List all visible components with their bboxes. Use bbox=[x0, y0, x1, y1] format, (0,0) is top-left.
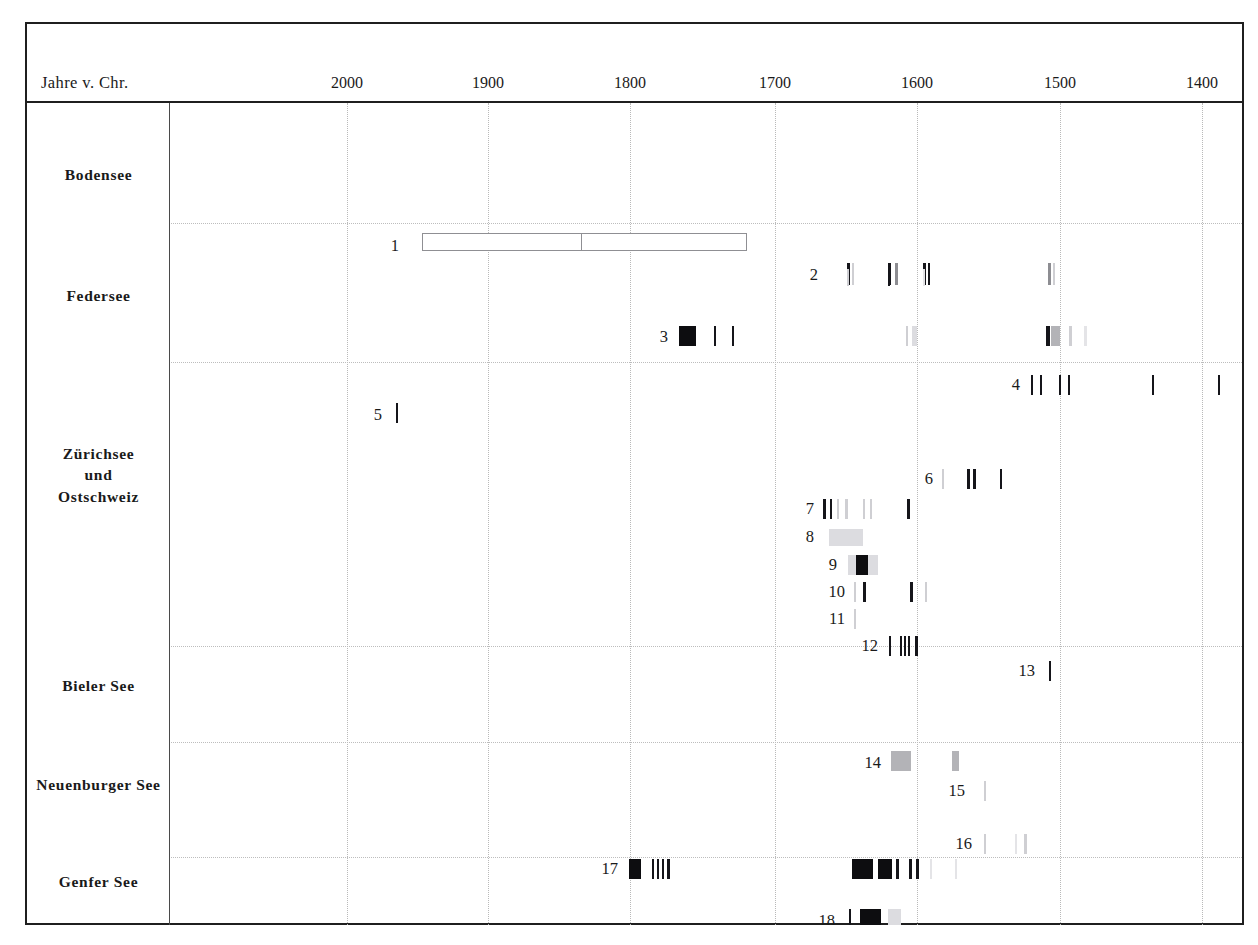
gridline-1900 bbox=[488, 103, 489, 925]
series-10-bar bbox=[910, 582, 913, 602]
series-2-bar bbox=[923, 269, 925, 286]
axis-tick-1500: 1500 bbox=[1044, 74, 1076, 92]
chart-header: Jahre v. Chr. 20001900180017001600150014… bbox=[27, 24, 1242, 103]
series-4-bar bbox=[1152, 375, 1154, 395]
series-number-5: 5 bbox=[374, 405, 382, 425]
series-7-bar bbox=[870, 499, 872, 519]
series-11-bar bbox=[854, 609, 856, 629]
series-14-bar bbox=[952, 751, 959, 771]
series-16-bar bbox=[984, 834, 986, 854]
series-16-bar bbox=[1015, 834, 1017, 854]
lake-label-zuerichsee-line1: Zürichsee bbox=[63, 445, 135, 462]
series-12-bar bbox=[900, 636, 902, 656]
series-4-bar bbox=[1068, 375, 1070, 395]
series-7-bar bbox=[863, 499, 865, 519]
series-7-bar bbox=[837, 499, 839, 519]
series-number-12: 12 bbox=[862, 636, 879, 656]
series-number-3: 3 bbox=[660, 327, 668, 347]
series-10-bar bbox=[925, 582, 927, 602]
series-3-bar bbox=[714, 326, 716, 346]
series-4-bar bbox=[1040, 375, 1042, 395]
series-4-bar bbox=[1059, 375, 1061, 395]
series-3-bar bbox=[732, 326, 734, 346]
series-2-bar bbox=[852, 263, 854, 285]
series-12-bar bbox=[889, 636, 891, 656]
gridline-1400 bbox=[1202, 103, 1203, 925]
series-2-bar bbox=[847, 269, 849, 286]
series-17-bar bbox=[909, 859, 912, 879]
axis-tick-1600: 1600 bbox=[901, 74, 933, 92]
series-10-bar bbox=[863, 582, 866, 602]
series-number-8: 8 bbox=[806, 527, 814, 547]
series-13-bar bbox=[1049, 661, 1051, 681]
series-number-4: 4 bbox=[1012, 375, 1020, 395]
series-2-bar bbox=[1053, 263, 1055, 285]
series-3-bar bbox=[1046, 326, 1050, 346]
lake-label-zuerichsee-line3: Ostschweiz bbox=[58, 488, 139, 505]
series-number-10: 10 bbox=[829, 582, 846, 602]
series-3-bar bbox=[912, 326, 917, 346]
series-3-bar bbox=[679, 326, 696, 346]
lake-label-bieler: Bieler See bbox=[27, 675, 170, 696]
series-12-bar bbox=[908, 636, 910, 656]
series-number-6: 6 bbox=[925, 469, 933, 489]
series-3-bar bbox=[1069, 326, 1072, 346]
series-10-bar bbox=[854, 582, 856, 602]
series-number-11: 11 bbox=[829, 609, 845, 629]
series-3-bar bbox=[1051, 326, 1060, 346]
series-17-bar bbox=[657, 859, 659, 879]
series-18-bar bbox=[849, 909, 851, 925]
series-number-9: 9 bbox=[829, 555, 837, 575]
gridline-1600 bbox=[917, 103, 918, 925]
series-17-bar bbox=[629, 859, 641, 879]
series-6-bar bbox=[973, 469, 976, 489]
series-17-bar bbox=[930, 859, 932, 879]
lake-label-bodensee: Bodensee bbox=[27, 164, 170, 185]
series-7-bar bbox=[830, 499, 832, 519]
series-17-bar bbox=[652, 859, 654, 879]
series-1-bar bbox=[581, 233, 583, 251]
series-17-bar bbox=[662, 859, 664, 879]
series-18-bar bbox=[888, 909, 901, 925]
group-separator-2 bbox=[170, 646, 1242, 647]
series-number-1: 1 bbox=[391, 236, 399, 256]
series-number-15: 15 bbox=[949, 781, 966, 801]
series-2-bar bbox=[928, 263, 930, 285]
series-12-bar bbox=[915, 636, 918, 656]
series-number-18: 18 bbox=[819, 911, 836, 925]
lake-label-federsee: Federsee bbox=[27, 285, 170, 306]
group-separator-3 bbox=[170, 742, 1242, 743]
series-1-bar bbox=[422, 233, 747, 251]
series-number-17: 17 bbox=[602, 859, 619, 879]
group-separator-4 bbox=[170, 857, 1242, 858]
series-3-bar bbox=[1084, 326, 1087, 346]
series-6-bar bbox=[967, 469, 970, 489]
series-2-bar bbox=[895, 263, 898, 285]
series-17-bar bbox=[955, 859, 957, 879]
series-17-bar bbox=[916, 859, 919, 879]
series-17-bar bbox=[878, 859, 892, 879]
series-4-bar bbox=[1218, 375, 1220, 395]
axis-title: Jahre v. Chr. bbox=[41, 73, 129, 93]
gridline-2000 bbox=[347, 103, 348, 925]
axis-tick-1400: 1400 bbox=[1186, 74, 1218, 92]
series-18-bar bbox=[860, 909, 881, 925]
series-14-bar bbox=[891, 751, 911, 771]
series-8-bar bbox=[829, 529, 863, 546]
chart-plot-area: 123456789101112131415161718192021 bbox=[170, 103, 1242, 925]
series-2-bar bbox=[888, 269, 890, 286]
series-3-bar bbox=[906, 326, 908, 346]
lake-label-column: Bodensee Federsee Zürichsee und Ostschwe… bbox=[27, 103, 170, 925]
series-number-14: 14 bbox=[865, 753, 882, 773]
series-6-bar bbox=[942, 469, 944, 489]
chart-frame: Jahre v. Chr. 20001900180017001600150014… bbox=[25, 22, 1244, 925]
series-2-bar bbox=[1048, 263, 1051, 285]
axis-tick-1900: 1900 bbox=[472, 74, 504, 92]
gridline-1700 bbox=[775, 103, 776, 925]
series-number-13: 13 bbox=[1019, 661, 1036, 681]
lake-label-zuerichsee: Zürichsee und Ostschweiz bbox=[27, 443, 170, 507]
series-number-2: 2 bbox=[810, 265, 818, 285]
group-separator-0 bbox=[170, 223, 1242, 224]
series-7-bar bbox=[845, 499, 848, 519]
gridline-1500 bbox=[1060, 103, 1061, 925]
